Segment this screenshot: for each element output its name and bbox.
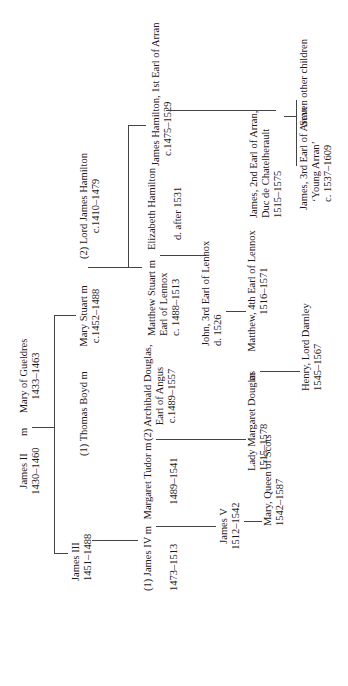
person-henry-darnley: Henry, Lord Darnley 1545–1567 (300, 303, 324, 391)
connector (260, 371, 300, 372)
name: Matthew Stuart (146, 271, 157, 336)
connector (54, 315, 76, 316)
marriage-marker: m (78, 371, 89, 379)
dates: c.1489–1557 (166, 351, 178, 441)
name: John, 3rd Earl of Lennox (200, 241, 212, 346)
connector (54, 553, 68, 554)
person-margaret-tudor: Margaret Tudor m 1489–1541 (142, 441, 180, 521)
marriage-marker: m (146, 260, 157, 268)
person-matthew-stuart: Matthew Stuart m Earl of Lennox c. 1488–… (146, 260, 182, 336)
person-james-hamilton-1st-arran: James Hamilton, 1st Earl of Arran c.1475… (150, 23, 174, 166)
person-thomas-boyd: (1) Thomas Boyd m (78, 371, 90, 456)
name: (1) James IV (142, 537, 153, 591)
connector (54, 316, 55, 554)
dates: c.1452–1488 (90, 271, 102, 361)
dates: c. 1537–1609 (322, 107, 334, 202)
connector (128, 126, 129, 268)
marriage-marker: m (78, 285, 89, 293)
person-james-v: James V 1512–1542 (218, 496, 242, 556)
dates: d. 1526 (212, 241, 224, 346)
person-lord-james-hamilton: (2) Lord James Hamilton c.1410–1479 (78, 146, 102, 266)
dates: 1545–1567 (312, 303, 324, 391)
connector (156, 439, 246, 440)
james-iv-line: (1) James IV m (142, 526, 154, 591)
connector (32, 427, 54, 428)
name: Mary of Gueldres (18, 331, 30, 421)
marriage-marker: m (18, 428, 30, 436)
connector (128, 125, 146, 126)
dates: 1515–1575 (272, 111, 284, 218)
nickname: ‘Young Arran’ (310, 107, 322, 202)
name: James II (18, 441, 30, 501)
name: (2) Lord James Hamilton (78, 146, 90, 266)
person-james-ii: James II 1430–1460 (18, 441, 42, 501)
name: Matthew, 4th Earl of Lennox (246, 216, 258, 366)
dates: 1473–1513 (168, 526, 180, 591)
connector (284, 116, 296, 117)
dates: 1430–1460 (30, 441, 42, 501)
dates: 1512–1542 (230, 496, 242, 556)
connector (88, 267, 128, 268)
person-archibald-douglas: (2) Archibald Douglas, Earl of Angus c.1… (142, 351, 178, 441)
connector (244, 521, 262, 522)
person-james-iv: (1) James IV m 1473–1513 (142, 526, 180, 591)
margaret-tudor-line: Margaret Tudor m (142, 441, 154, 521)
person-john-lennox: John, 3rd Earl of Lennox d. 1526 (200, 241, 224, 346)
dates: c.1475–1529 (162, 23, 174, 156)
dates: 1489–1541 (168, 441, 180, 521)
person-james-2nd-earl-arran: James, 2nd Earl of Arran, Duc de Chatelh… (248, 111, 284, 218)
dates: c. 1488–1513 (170, 260, 182, 336)
person-mary-stuart: Mary Stuart m c.1452–1488 (78, 271, 102, 361)
name: (1) Thomas Boyd (78, 382, 89, 456)
mary-stuart-line: Mary Stuart m (78, 271, 90, 361)
dates: 1433–1463 (30, 331, 42, 421)
name: Mary, Queen of Scots (262, 435, 274, 526)
name: James III (70, 534, 82, 581)
connector (128, 267, 142, 268)
connector (92, 540, 138, 541)
person-elizabeth-hamilton: Elizabeth Hamilton d. after 1531 (146, 168, 184, 250)
connector (226, 311, 246, 312)
dates: 1542–1587 (274, 435, 286, 526)
dates: 1516–1571 (258, 216, 270, 366)
name: Henry, Lord Darnley (300, 303, 312, 391)
name: Elizabeth Hamilton (146, 168, 158, 250)
name: James Hamilton, 1st Earl of Arran (150, 23, 162, 166)
family-tree-diagram: James II 1430–1460 m Mary of Gueldres 14… (0, 0, 348, 686)
name: James V (218, 496, 230, 556)
dates: c.1410–1479 (90, 146, 102, 266)
person-mary-queen-of-scots: Mary, Queen of Scots 1542–1587 (262, 435, 286, 526)
connector (156, 526, 216, 527)
person-seven-other-children: Seven other children (298, 39, 310, 126)
title: Earl of Lennox (158, 260, 170, 336)
marriage-marker: m (142, 443, 153, 451)
person-mary-of-gueldres: Mary of Gueldres 1433–1463 (18, 331, 42, 421)
marriage-marker: m (142, 526, 153, 534)
person-matthew-lennox: Matthew, 4th Earl of Lennox 1516–1571 (246, 216, 270, 366)
matthew-stuart-line: Matthew Stuart m (146, 260, 158, 336)
dates: d. after 1531 (172, 168, 184, 240)
name: Lady Margaret Douglas (246, 371, 258, 471)
name: Mary Stuart (78, 296, 89, 346)
name: James, 2nd Earl of Arran, (248, 111, 260, 218)
title: Earl of Angus (154, 351, 166, 441)
title: Duc de Chatelherault (260, 111, 272, 218)
name: Margaret Tudor (142, 453, 153, 519)
person-james-iii: James III 1451–1488 (70, 534, 94, 581)
marriage-marker: m (246, 373, 258, 381)
connector (296, 100, 297, 166)
name: (2) Archibald Douglas, (142, 351, 154, 441)
